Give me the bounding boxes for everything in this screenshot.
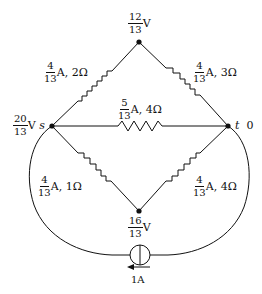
t-node-voltage: 0: [246, 119, 253, 132]
s-voltage-num: 20: [13, 114, 28, 126]
bottom-voltage-num: 16: [128, 216, 143, 228]
s-node-name: s: [39, 119, 45, 132]
bottom-t-current-den: 13: [193, 187, 206, 198]
circuit-diagram: [0, 0, 262, 294]
s-top-current-num: 4: [46, 61, 54, 73]
node-s: [49, 123, 54, 128]
bottom-t-current-num: 4: [195, 175, 203, 187]
s-bottom-current-den: 13: [38, 187, 51, 198]
s-t-suffix: A, 4Ω: [131, 103, 162, 116]
bottom-voltage-unit: V: [143, 221, 151, 234]
t-node-label: t 0: [235, 120, 253, 131]
top-voltage-num: 12: [128, 12, 143, 24]
wire-bottom-t: [139, 126, 228, 211]
edge-s-t-label: 513A, 4Ω: [118, 98, 162, 121]
top-t-current-num: 4: [195, 61, 203, 73]
wire-s-bottom: [52, 126, 139, 211]
node-bottom: [136, 208, 141, 213]
top-voltage-den: 13: [129, 24, 142, 35]
node-top: [136, 39, 141, 44]
node-t: [225, 123, 230, 128]
s-top-suffix: A, 2Ω: [57, 66, 88, 79]
s-voltage-den: 13: [14, 126, 27, 137]
s-t-current-num: 5: [120, 98, 128, 110]
s-bottom-current-num: 4: [40, 175, 48, 187]
t-node-name: t: [235, 119, 239, 132]
s-voltage-unit: V: [28, 119, 36, 132]
top-node-voltage-label: 1213V: [128, 12, 151, 35]
s-top-current-den: 13: [44, 73, 57, 84]
s-t-current-den: 13: [118, 110, 131, 121]
s-bottom-suffix: A, 1Ω: [51, 180, 82, 193]
arrow-head-icon: [127, 264, 134, 270]
source-current-label: 1A: [131, 275, 145, 285]
bottom-t-suffix: A, 4Ω: [206, 180, 237, 193]
top-voltage-unit: V: [143, 17, 151, 30]
bottom-voltage-den: 13: [129, 228, 142, 239]
edge-s-top-label: 413A, 2Ω: [44, 61, 88, 84]
edge-top-t-label: 413A, 3Ω: [193, 61, 237, 84]
top-t-current-den: 13: [193, 73, 206, 84]
edge-s-bottom-label: 413A, 1Ω: [38, 175, 82, 198]
top-t-suffix: A, 3Ω: [206, 66, 237, 79]
s-node-voltage-label: 2013V s: [13, 114, 45, 137]
edge-bottom-t-label: 413A, 4Ω: [193, 175, 237, 198]
wire-s-t: [52, 121, 228, 131]
bottom-node-voltage-label: 1613V: [128, 216, 151, 239]
